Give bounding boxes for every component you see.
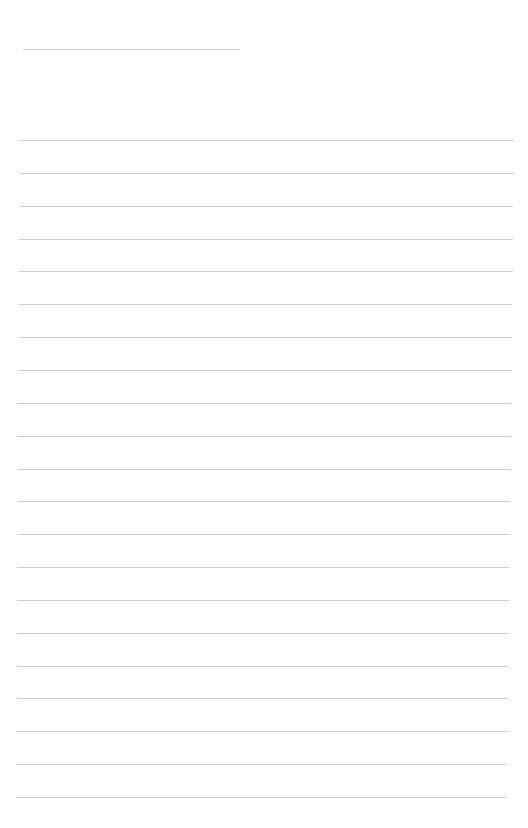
- ruled-line: [17, 633, 509, 634]
- ruled-line: [18, 403, 511, 404]
- ruled-line: [20, 206, 514, 207]
- ruled-line: [19, 304, 512, 305]
- ruled-line: [19, 370, 512, 371]
- ruled-line: [20, 140, 514, 141]
- name-header-line: [23, 49, 240, 50]
- ruled-line: [17, 666, 509, 667]
- ruled-line: [16, 731, 507, 732]
- ruled-line: [17, 567, 509, 568]
- ruled-line: [17, 600, 509, 601]
- ruled-line: [19, 271, 512, 272]
- ruled-line: [19, 337, 512, 338]
- ruled-line: [16, 764, 507, 765]
- ruled-line: [19, 239, 513, 240]
- ruled-line: [18, 469, 511, 470]
- ruled-line: [18, 501, 510, 502]
- ruled-line: [18, 436, 511, 437]
- ruled-line: [18, 534, 510, 535]
- ruled-line: [20, 173, 514, 174]
- ruled-line: [17, 698, 508, 699]
- ruled-line: [16, 797, 507, 798]
